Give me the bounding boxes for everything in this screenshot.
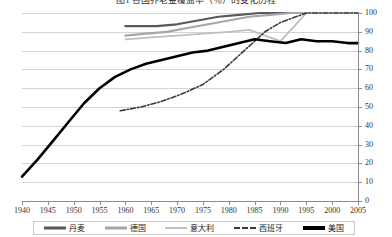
x-tick-mark	[100, 201, 101, 205]
y-tick-mark	[358, 182, 362, 183]
legend-item[interactable]: 丹麦	[44, 224, 85, 233]
x-tick-mark	[203, 201, 204, 205]
legend-item-label: 意大利	[190, 224, 214, 233]
x-axis-line	[22, 201, 359, 202]
y-tick-label: 60	[365, 84, 373, 92]
x-tick-label: 1980	[221, 207, 237, 216]
x-tick-label: 1940	[14, 207, 30, 216]
plot-area	[22, 13, 358, 201]
series-line	[125, 13, 358, 36]
y-tick-label: 100	[365, 9, 377, 17]
y-tick-mark	[358, 107, 362, 108]
x-tick-mark	[48, 201, 49, 205]
chart-legend: 丹麦德国意大利西班牙美国	[33, 221, 355, 235]
y-tick-label: 30	[365, 141, 373, 149]
y-tick-mark	[358, 145, 362, 146]
y-tick-label: 20	[365, 159, 373, 167]
legend-item[interactable]: 美国	[303, 224, 344, 233]
line-chart: 图1 各国养老金覆盖率（％）的变化历程 丹麦德国意大利西班牙美国 0102030…	[0, 0, 392, 237]
chart-title: 图1 各国养老金覆盖率（％）的变化历程	[0, 0, 392, 5]
y-tick-mark	[358, 13, 362, 14]
y-tick-mark	[358, 126, 362, 127]
data-series-layer	[22, 13, 358, 201]
legend-item[interactable]: 西班牙	[234, 224, 283, 233]
y-tick-mark	[358, 163, 362, 164]
y-tick-label: 90	[365, 28, 373, 36]
y-tick-label: 50	[365, 103, 373, 111]
y-tick-label: 40	[365, 122, 373, 130]
legend-item[interactable]: 德国	[105, 224, 146, 233]
x-tick-mark	[332, 201, 333, 205]
y-tick-mark	[358, 51, 362, 52]
y-tick-mark	[358, 32, 362, 33]
x-tick-mark	[229, 201, 230, 205]
x-tick-label: 1945	[40, 207, 56, 216]
x-tick-label: 2005	[350, 207, 366, 216]
y-tick-label: 10	[365, 178, 373, 186]
x-tick-mark	[255, 201, 256, 205]
x-tick-label: 1975	[195, 207, 211, 216]
y-tick-label: 70	[365, 65, 373, 73]
x-tick-mark	[151, 201, 152, 205]
x-tick-mark	[280, 201, 281, 205]
legend-item-label: 美国	[328, 224, 344, 233]
x-tick-label: 1995	[298, 207, 314, 216]
x-tick-mark	[177, 201, 178, 205]
x-tick-label: 1950	[66, 207, 82, 216]
x-tick-mark	[22, 201, 23, 205]
x-tick-mark	[125, 201, 126, 205]
legend-item-label: 德国	[130, 224, 146, 233]
x-tick-label: 1955	[92, 207, 108, 216]
series-line	[22, 39, 358, 176]
x-tick-label: 1970	[169, 207, 185, 216]
x-tick-label: 1990	[272, 207, 288, 216]
x-tick-label: 1985	[247, 207, 263, 216]
y-tick-mark	[358, 88, 362, 89]
x-tick-label: 1965	[143, 207, 159, 216]
x-tick-mark	[358, 201, 359, 205]
x-tick-label: 2000	[324, 207, 340, 216]
y-tick-label: 0	[365, 197, 369, 205]
legend-item-label: 丹麦	[69, 224, 85, 233]
x-tick-mark	[306, 201, 307, 205]
series-line	[125, 13, 358, 26]
y-tick-label: 80	[365, 47, 373, 55]
x-tick-mark	[74, 201, 75, 205]
x-tick-label: 1960	[117, 207, 133, 216]
legend-item-label: 西班牙	[259, 224, 283, 233]
y-tick-mark	[358, 69, 362, 70]
legend-item[interactable]: 意大利	[165, 224, 214, 233]
